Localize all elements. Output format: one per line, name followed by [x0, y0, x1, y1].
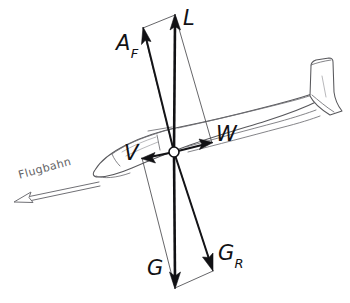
- construction-af-to-l: [143, 15, 175, 28]
- vector-weight: [170, 152, 181, 289]
- label-lift: L: [183, 8, 195, 29]
- construction-g-to-gr: [175, 271, 213, 288]
- glider-force-diagram: L AF W V G GR Flugbahn: [0, 0, 350, 303]
- center-of-gravity-hub: [169, 147, 179, 157]
- label-af-base: A: [116, 31, 130, 55]
- flightpath-arrowhead: [14, 192, 33, 203]
- label-resultant-weight: GR: [218, 243, 243, 267]
- label-gr-base: G: [218, 241, 234, 265]
- flightpath-arrow: [14, 182, 100, 203]
- label-weight: G: [147, 258, 163, 279]
- label-total-aero-force: AF: [116, 33, 138, 57]
- vector-resultant-weight: [174, 152, 213, 271]
- label-velocity: V: [124, 143, 138, 164]
- label-af-subscript: F: [131, 46, 139, 61]
- diagram-canvas: [0, 0, 350, 303]
- label-drag: W: [216, 124, 237, 145]
- label-gr-subscript: R: [235, 256, 244, 271]
